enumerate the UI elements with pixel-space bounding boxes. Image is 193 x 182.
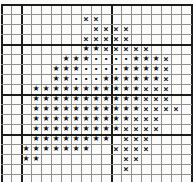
star-stitch-symbol: ★ [71, 104, 81, 114]
cross-stitch-symbol: × [151, 84, 161, 94]
star-stitch-symbol: ★ [31, 144, 41, 154]
star-stitch-symbol: ★ [51, 94, 61, 104]
star-stitch-symbol: ★ [111, 114, 121, 124]
star-stitch-symbol: ★ [111, 74, 121, 84]
star-stitch-symbol: ★ [81, 134, 91, 144]
cross-stitch-symbol: × [121, 24, 131, 34]
cross-stitch-symbol: × [161, 104, 171, 114]
cross-stitch-symbol: × [131, 154, 141, 164]
star-stitch-symbol: ★ [101, 134, 111, 144]
cross-stitch-symbol: × [161, 94, 171, 104]
star-stitch-symbol: ★ [31, 124, 41, 134]
cross-stitch-symbol: × [111, 144, 121, 154]
star-stitch-symbol: ★ [111, 104, 121, 114]
star-stitch-symbol: ★ [71, 114, 81, 124]
star-stitch-symbol: ★ [61, 124, 71, 134]
star-stitch-symbol: ★ [131, 84, 141, 94]
star-stitch-symbol: ★ [41, 134, 51, 144]
cross-stitch-symbol: × [161, 84, 171, 94]
cross-stitch-symbol: × [121, 164, 131, 174]
cross-stitch-symbol: × [111, 24, 121, 34]
star-stitch-symbol: ★ [61, 84, 71, 94]
cross-stitch-symbol: × [141, 84, 151, 94]
star-stitch-symbol: ★ [121, 64, 131, 74]
star-stitch-symbol: ★ [91, 114, 101, 124]
cross-stitch-symbol: × [131, 124, 141, 134]
star-stitch-symbol: ★ [91, 134, 101, 144]
star-stitch-symbol: ★ [31, 134, 41, 144]
star-stitch-symbol: ★ [141, 74, 151, 84]
grid-rule-bold [1, 4, 3, 182]
star-stitch-symbol: ★ [41, 94, 51, 104]
star-stitch-symbol: ★ [131, 64, 141, 74]
cross-stitch-pattern-chart: ×××××××××××★★×××××★★★····★★★×★★★····★★★★… [0, 0, 193, 182]
grid-rule [1, 174, 192, 175]
star-stitch-symbol: ★ [51, 124, 61, 134]
cross-stitch-symbol: × [111, 34, 121, 44]
star-stitch-symbol: ★ [21, 154, 31, 164]
cross-stitch-symbol: × [91, 14, 101, 24]
cross-stitch-symbol: × [161, 64, 171, 74]
cross-stitch-symbol: × [101, 34, 111, 44]
star-stitch-symbol: ★ [51, 134, 61, 144]
star-stitch-symbol: ★ [111, 84, 121, 94]
star-stitch-symbol: ★ [41, 124, 51, 134]
star-stitch-symbol: ★ [81, 94, 91, 104]
star-stitch-symbol: ★ [121, 84, 131, 94]
star-stitch-symbol: ★ [111, 94, 121, 104]
star-stitch-symbol: ★ [51, 64, 61, 74]
star-stitch-symbol: ★ [131, 74, 141, 84]
dot-stitch-symbol: · [101, 64, 111, 74]
cross-stitch-symbol: × [161, 74, 171, 84]
star-stitch-symbol: ★ [81, 124, 91, 134]
star-stitch-symbol: ★ [101, 124, 111, 134]
star-stitch-symbol: ★ [51, 84, 61, 94]
star-stitch-symbol: ★ [101, 104, 111, 114]
star-stitch-symbol: ★ [61, 94, 71, 104]
star-stitch-symbol: ★ [101, 94, 111, 104]
star-stitch-symbol: ★ [81, 44, 91, 54]
star-stitch-symbol: ★ [91, 124, 101, 134]
star-stitch-symbol: ★ [31, 84, 41, 94]
star-stitch-symbol: ★ [31, 104, 41, 114]
cross-stitch-symbol: × [141, 124, 151, 134]
cross-stitch-symbol: × [131, 134, 141, 144]
star-stitch-symbol: ★ [131, 94, 141, 104]
cross-stitch-symbol: × [91, 34, 101, 44]
cross-stitch-symbol: × [151, 104, 161, 114]
star-stitch-symbol: ★ [61, 64, 71, 74]
cross-stitch-symbol: × [141, 44, 151, 54]
cross-stitch-symbol: × [131, 144, 141, 154]
star-stitch-symbol: ★ [51, 104, 61, 114]
dot-stitch-symbol: · [111, 64, 121, 74]
cross-stitch-symbol: × [121, 34, 131, 44]
grid-rule [11, 4, 12, 182]
cross-stitch-symbol: × [171, 104, 181, 114]
grid-rule [181, 4, 182, 182]
star-stitch-symbol: ★ [121, 114, 131, 124]
cross-stitch-symbol: × [101, 24, 111, 34]
star-stitch-symbol: ★ [41, 84, 51, 94]
star-stitch-symbol: ★ [61, 114, 71, 124]
cross-stitch-symbol: × [151, 114, 161, 124]
star-stitch-symbol: ★ [61, 54, 71, 64]
star-stitch-symbol: ★ [61, 74, 71, 84]
star-stitch-symbol: ★ [121, 74, 131, 84]
star-stitch-symbol: ★ [71, 134, 81, 144]
grid-rule-bold [1, 4, 192, 6]
star-stitch-symbol: ★ [41, 144, 51, 154]
cross-stitch-symbol: × [141, 134, 151, 144]
star-stitch-symbol: ★ [71, 84, 81, 94]
star-stitch-symbol: ★ [131, 104, 141, 114]
cross-stitch-symbol: × [121, 154, 131, 164]
cross-stitch-symbol: × [141, 114, 151, 124]
cross-stitch-symbol: × [121, 124, 131, 134]
star-stitch-symbol: ★ [101, 84, 111, 94]
star-stitch-symbol: ★ [141, 54, 151, 64]
star-stitch-symbol: ★ [151, 74, 161, 84]
star-stitch-symbol: ★ [91, 104, 101, 114]
cross-stitch-symbol: × [81, 14, 91, 24]
star-stitch-symbol: ★ [71, 94, 81, 104]
dot-stitch-symbol: · [91, 74, 101, 84]
cross-stitch-symbol: × [161, 54, 171, 64]
